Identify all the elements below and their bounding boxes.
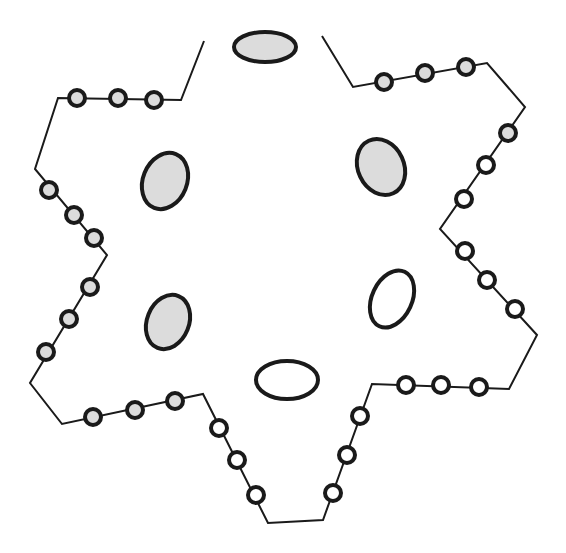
ellipse-bottom bbox=[256, 361, 318, 399]
ellipse-right-middle bbox=[361, 263, 423, 334]
bead-circle bbox=[82, 279, 98, 295]
bead-circle bbox=[433, 377, 449, 393]
bead-circle bbox=[41, 182, 57, 198]
bead-circle bbox=[167, 393, 183, 409]
bead-circle bbox=[110, 90, 126, 106]
bead-circle bbox=[66, 207, 82, 223]
bead-circle bbox=[376, 74, 392, 90]
ellipse-upper-right bbox=[348, 131, 414, 203]
bead-circle bbox=[211, 420, 227, 436]
bead-circle bbox=[61, 311, 77, 327]
bead-circle bbox=[507, 301, 523, 317]
ellipse-lower-left bbox=[138, 288, 198, 356]
bead-circle bbox=[69, 90, 85, 106]
bead-circle bbox=[339, 447, 355, 463]
outline-beads bbox=[38, 59, 523, 503]
bead-circle bbox=[479, 272, 495, 288]
bead-circle bbox=[85, 409, 101, 425]
bead-circle bbox=[417, 65, 433, 81]
bead-circle bbox=[457, 243, 473, 259]
bead-circle bbox=[38, 344, 54, 360]
bead-circle bbox=[478, 157, 494, 173]
bead-circle bbox=[146, 92, 162, 108]
bead-circle bbox=[398, 377, 414, 393]
ellipse-upper-left bbox=[134, 146, 197, 216]
bead-circle bbox=[500, 125, 516, 141]
bead-circle bbox=[352, 408, 368, 424]
outline-line bbox=[30, 36, 537, 523]
outline-polyline bbox=[30, 36, 537, 523]
bead-circle bbox=[325, 485, 341, 501]
bead-circle bbox=[458, 59, 474, 75]
bead-circle bbox=[456, 191, 472, 207]
star-shaped-bead-diagram bbox=[0, 0, 566, 553]
bead-circle bbox=[471, 379, 487, 395]
ellipse-top bbox=[234, 32, 296, 62]
bead-circle bbox=[229, 452, 245, 468]
bead-circle bbox=[127, 402, 143, 418]
bead-circle bbox=[248, 487, 264, 503]
bead-circle bbox=[86, 230, 102, 246]
